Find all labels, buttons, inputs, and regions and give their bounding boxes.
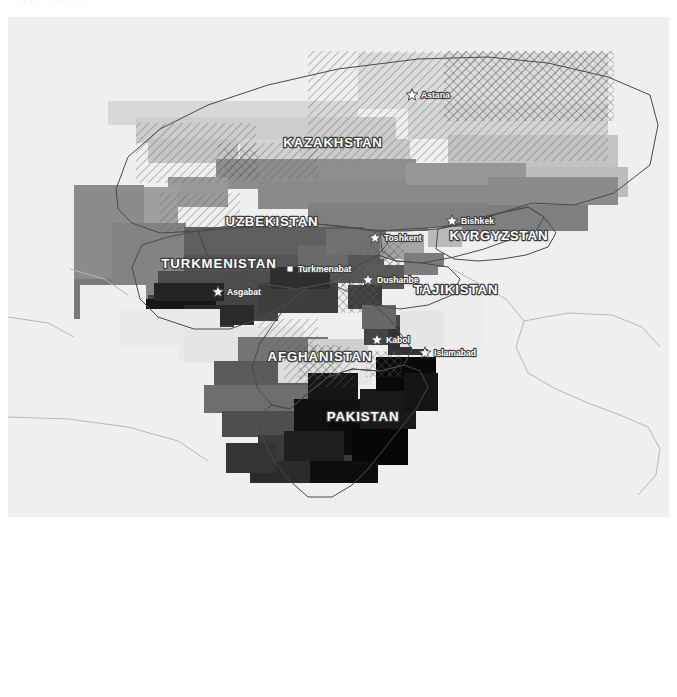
city-label: Dushanbe: [377, 275, 419, 285]
climate-map[interactable]: KAZAKHSTANUZBEKISTANTURKMENISTANKYRGYZST…: [8, 17, 669, 517]
map-panel[interactable]: KAZAKHSTANUZBEKISTANTURKMENISTANKYRGYZST…: [8, 17, 669, 517]
city-square-icon: [287, 266, 293, 272]
city-label: Islamabad: [434, 348, 476, 358]
top-cutoff-strip: · · · · · · · · · · · ·: [0, 0, 677, 9]
city-label: Astana: [421, 90, 450, 100]
city-label: Kabol: [386, 335, 410, 345]
legend-block: Change in number of days with temperatur…: [0, 518, 677, 697]
top-cutoff-text: · · · · · · · · · · · ·: [10, 0, 85, 6]
city-label: Bishkek: [461, 216, 494, 226]
country-label: TAJIKISTAN: [414, 282, 499, 297]
country-label: KAZAKHSTAN: [283, 135, 383, 150]
country-label: UZBEKISTAN: [225, 214, 318, 229]
city-label: Asgabat: [227, 287, 261, 297]
country-label: KYRGYZSTAN: [450, 228, 549, 243]
country-label: AFGHANISTAN: [268, 349, 373, 364]
country-label: PAKISTAN: [327, 409, 400, 424]
city-label: Turkmenabat: [298, 264, 351, 274]
country-label: TURKMENISTAN: [161, 256, 276, 271]
city-label: Toshkent: [384, 233, 422, 243]
